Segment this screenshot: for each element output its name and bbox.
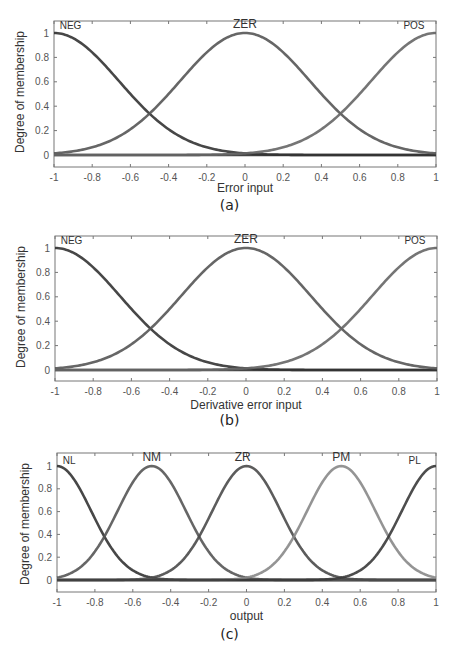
mf-label-pm: PM	[332, 450, 350, 464]
x-tick-label: 0.8	[391, 597, 405, 608]
x-axis-label-c: output	[57, 609, 436, 623]
caption-c: (c)	[0, 626, 459, 642]
plot-frame	[57, 453, 436, 592]
x-tick-label: -0.4	[162, 597, 180, 608]
panel-c: -1-0.8-0.6-0.4-0.200.20.40.60.8100.20.40…	[0, 0, 459, 650]
mf-label-nm: NM	[142, 450, 161, 464]
x-tick-label: -0.8	[86, 597, 104, 608]
plot-c: -1-0.8-0.6-0.4-0.200.20.40.60.8100.20.40…	[0, 0, 459, 650]
y-tick-label: 0.6	[38, 506, 52, 517]
x-tick-label: 0.2	[277, 597, 291, 608]
y-tick-label: 0	[46, 575, 52, 586]
x-tick-label: 0.6	[353, 597, 367, 608]
y-axis-label-c: Degree of membership	[18, 454, 32, 594]
y-tick-label: 0.4	[38, 529, 52, 540]
mf-label-nl: NL	[63, 455, 76, 466]
x-tick-label: 1	[433, 597, 439, 608]
mf-label-zr: ZR	[235, 450, 251, 464]
y-tick-label: 0.2	[38, 552, 52, 563]
x-tick-label: 0	[244, 597, 250, 608]
y-tick-label: 0.8	[38, 483, 52, 494]
y-tick-label: 1	[46, 461, 52, 472]
mf-label-pl: PL	[409, 455, 422, 466]
x-tick-label: 0.4	[315, 597, 329, 608]
x-tick-label: -0.2	[200, 597, 218, 608]
x-tick-label: -0.6	[124, 597, 142, 608]
x-tick-label: -1	[53, 597, 62, 608]
